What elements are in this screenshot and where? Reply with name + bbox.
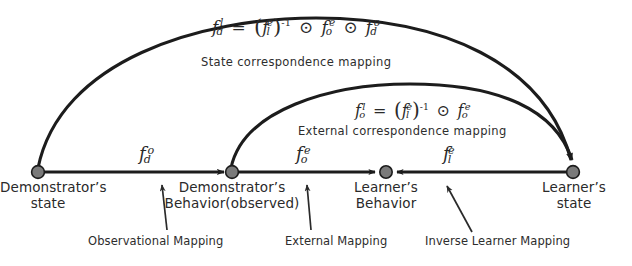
node-learner-state [567, 166, 580, 179]
edge-label-external: foe [296, 143, 311, 166]
label-demonstrator-state: Demonstrator’s state [0, 180, 96, 211]
label-learner-state: Learner’s state [522, 180, 626, 211]
annotation-inverse-learner-mapping: Inverse Learner Mapping [425, 234, 570, 248]
formula-state-correspondence: fdl = (fle)-1 ⊙ foe ⊙ fdo [212, 14, 380, 39]
formula1-term3-sup: o [374, 16, 380, 28]
formula2-equals: = [373, 101, 386, 120]
label-demonstrator-behavior-line2: Behavior(observed) [156, 196, 308, 212]
label-demonstrator-behavior-line1: Demonstrator’s [156, 180, 308, 196]
label-learner-behavior-line1: Learner’s [330, 180, 442, 196]
formula1-open-paren: ( [254, 14, 262, 39]
formula2-open-paren: ( [394, 98, 402, 122]
node-demonstrator-behavior [226, 166, 239, 179]
label-demonstrator-state-line1: Demonstrator’s [0, 180, 96, 196]
node-learner-behavior [380, 166, 392, 178]
formula1-equals: = [232, 17, 246, 37]
formula2-lhs-sup: l [362, 101, 365, 112]
formula1-term2-sup: e [329, 16, 335, 28]
formula-external-correspondence: fol = (fle)-1 ⊙ foe [355, 98, 471, 122]
formula1-inverse-exponent: -1 [281, 17, 291, 28]
annotation-external-mapping: External Mapping [285, 234, 387, 248]
annotation-observational-mapping: Observational Mapping [88, 234, 223, 248]
formula2-term2-sup: e [465, 101, 471, 112]
node-demonstrator-state [32, 166, 45, 179]
caption-state-correspondence-mapping: State correspondence mapping [201, 55, 391, 69]
correspondence-mapping-figure: fdl = (fle)-1 ⊙ foe ⊙ fdo State correspo… [0, 0, 632, 266]
formula1-odot-1: ⊙ [299, 17, 313, 37]
formula2-inverse-exponent: -1 [420, 101, 429, 112]
label-demonstrator-behavior: Demonstrator’s Behavior(observed) [156, 180, 308, 211]
edge2-sup: e [304, 144, 311, 157]
label-learner-behavior-line2: Behavior [330, 196, 442, 212]
edge3-sup: e [448, 144, 455, 157]
edge1-sup: o [147, 144, 154, 157]
label-learner-state-line1: Learner’s [522, 180, 626, 196]
formula1-odot-2: ⊙ [343, 17, 357, 37]
formula2-close-paren: ) [412, 98, 420, 122]
edge-label-observational: fdo [139, 143, 154, 166]
label-demonstrator-state-line2: state [0, 196, 96, 212]
label-learner-state-line2: state [522, 196, 626, 212]
formula1-lhs-sup: l [220, 16, 223, 28]
label-learner-behavior: Learner’s Behavior [330, 180, 442, 211]
edge-label-inverse-learner: fle [443, 143, 455, 166]
formula2-odot-1: ⊙ [437, 101, 450, 120]
arrow-inverse-learner-mapping [447, 186, 472, 232]
caption-external-correspondence-mapping: External correspondence mapping [298, 124, 507, 138]
